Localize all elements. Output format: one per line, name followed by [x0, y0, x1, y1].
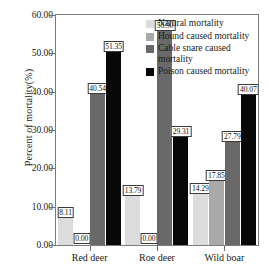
x-tick-mark — [224, 246, 225, 251]
y-tick-label: 30.00 — [13, 125, 53, 135]
y-axis-title: Percent of mortality(%) — [23, 38, 34, 198]
bar-value-label: 8.11 — [57, 207, 74, 218]
bar-value-label: 0.00 — [141, 233, 158, 244]
bar[interactable] — [241, 91, 256, 245]
legend-swatch-icon — [146, 68, 154, 76]
x-tick-label: Roe deer — [139, 252, 175, 263]
bar[interactable] — [106, 48, 121, 245]
bar-value-label: 17.85 — [206, 170, 227, 181]
bar[interactable] — [58, 214, 73, 245]
bar-value-label: 51.35 — [103, 41, 124, 52]
x-tick-mark — [157, 246, 158, 251]
chart-legend: Natural mortalityHound caused mortalityC… — [146, 18, 264, 79]
y-tick-label: 0.00 — [13, 240, 53, 250]
bar-chart-figure: Percent of mortality(%) 0.0010.0020.0030… — [0, 0, 269, 275]
bar[interactable] — [209, 177, 224, 245]
legend-swatch-icon — [146, 33, 154, 41]
legend-item[interactable]: Hound caused mortality — [146, 31, 264, 42]
y-tick-label: 20.00 — [13, 163, 53, 173]
x-tick-mark — [90, 246, 91, 251]
legend-item[interactable]: Natural mortality — [146, 18, 264, 29]
legend-swatch-icon — [146, 20, 154, 28]
bar-group: 8.110.0040.5451.35 — [56, 15, 123, 245]
bar-value-label: 27.79 — [222, 131, 243, 142]
bar[interactable] — [173, 133, 188, 245]
legend-item[interactable]: Poison caused mortality — [146, 66, 264, 77]
bar[interactable] — [225, 138, 240, 245]
y-tick-label: 10.00 — [13, 202, 53, 212]
bar-value-label: 40.54 — [87, 83, 108, 94]
bar[interactable] — [90, 90, 105, 245]
bar-value-label: 29.31 — [171, 126, 192, 137]
legend-swatch-icon — [146, 45, 154, 53]
x-tick-label: Red deer — [72, 252, 108, 263]
y-tick-label: 60.00 — [13, 10, 53, 20]
legend-item[interactable]: Cable snare caused mortality — [146, 43, 264, 64]
legend-label: Hound caused mortality — [158, 31, 249, 42]
legend-label: Cable snare caused mortality — [158, 43, 264, 64]
bar-value-label: 14.29 — [190, 183, 211, 194]
y-tick-label: 50.00 — [13, 48, 53, 58]
bar-value-label: 13.79 — [123, 185, 144, 196]
legend-label: Natural mortality — [158, 18, 224, 29]
bar[interactable] — [193, 190, 208, 245]
bar-value-label: 40.07 — [238, 84, 259, 95]
y-tick-label: 40.00 — [13, 87, 53, 97]
x-tick-label: Wild boar — [204, 252, 244, 263]
bar-value-label: 0.00 — [73, 233, 90, 244]
legend-label: Poison caused mortality — [158, 66, 249, 77]
bar[interactable] — [125, 192, 140, 245]
